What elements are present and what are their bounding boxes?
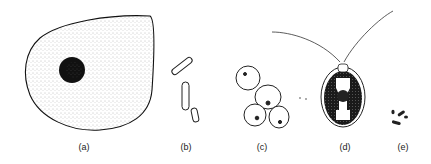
illustration-canvas bbox=[0, 0, 431, 164]
flagellum-right bbox=[344, 11, 393, 62]
panel-e-bacteria bbox=[391, 110, 408, 126]
label-e: (e) bbox=[398, 142, 409, 152]
label-b: (b) bbox=[181, 142, 192, 152]
label-d: (d) bbox=[340, 142, 351, 152]
panel-a-cell bbox=[25, 16, 154, 130]
panel-d-alga bbox=[272, 11, 393, 127]
label-a: (a) bbox=[79, 142, 90, 152]
panel-c-yeast bbox=[236, 66, 289, 128]
flagellum-left bbox=[272, 32, 340, 62]
panel-b-rods bbox=[171, 56, 200, 122]
tiny-dots bbox=[299, 97, 307, 100]
cell-illustration-figure: (a) (b) (c) (d) (e) bbox=[0, 0, 431, 164]
label-c: (c) bbox=[257, 142, 268, 152]
